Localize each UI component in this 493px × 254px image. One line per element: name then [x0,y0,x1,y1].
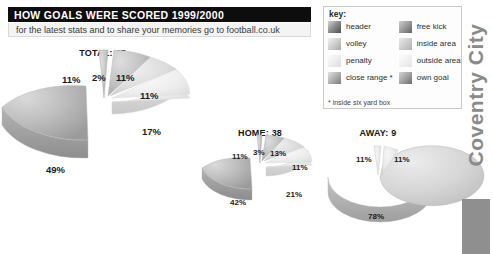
brand-color-block [462,199,490,254]
chart-home-label-3: 13% [270,149,286,158]
legend-item-penalty: penalty [328,54,393,67]
swatch-penalty-icon [328,55,341,67]
chart-home-label-2: 3% [253,148,265,157]
pie-total-slice-49 [2,85,88,158]
legend-item-own-goal: own goal [399,71,461,84]
legend-label-header: header [346,22,371,31]
chart-total-label-4: 11% [140,90,159,101]
chart-total-label-2: 2% [92,72,106,83]
legend-label-outside-area: outside area [417,56,461,65]
legend-title: key: [329,9,346,19]
legend-columns: header volley penalty close range * [328,20,458,84]
legend-label-inside-area: inside area [417,39,456,48]
pie-away-slice-11-left [374,146,381,175]
chart-total-pie [0,62,205,254]
brand-name: Coventry City [464,23,488,166]
pie-home-slice-42 [202,157,252,200]
poster-root: HOW GOALS WERE SCORED 1999/2000 for the … [0,0,493,254]
legend-column-left: header volley penalty close range * [328,20,393,84]
legend-key-box: key: header volley penalty close range * [323,6,462,109]
brand-strip: Coventry City [458,0,493,190]
chart-away: AWAY: 9 [318,128,458,254]
chart-away-title: AWAY: 9 [318,128,438,138]
chart-total-label-3: 11% [116,72,135,83]
chart-total-label-1: 11% [62,74,81,85]
chart-total-label-6: 49% [46,164,65,175]
page-subtitle: for the latest stats and to share your m… [9,25,280,35]
chart-total: TOTAL: 47 [0,48,205,254]
legend-item-close-range: close range * [328,71,393,84]
legend-label-free-kick: free kick [417,22,447,31]
swatch-inside-area-icon [399,38,412,50]
chart-home-label-6: 42% [230,198,246,207]
chart-home-label-4: 11% [292,163,308,172]
chart-home-label-5: 21% [286,190,302,199]
page-title-bar: HOW GOALS WERE SCORED 1999/2000 [8,7,311,22]
legend-item-volley: volley [328,37,393,50]
legend-item-inside-area: inside area [399,37,461,50]
pie-total-svg [0,62,205,254]
chart-home-label-1: 11% [232,152,248,161]
legend-footnote: * inside six yard box [328,99,390,106]
legend-item-outside-area: outside area [399,54,461,67]
legend-label-own-goal: own goal [417,73,449,82]
chart-away-pie [318,144,458,254]
legend-item-header: header [328,20,393,33]
legend-item-free-kick: free kick [399,20,461,33]
swatch-volley-icon [328,38,341,50]
legend-column-right: free kick inside area outside area own g… [399,20,461,84]
chart-away-label-2: 11% [394,155,410,164]
chart-total-label-5: 17% [142,126,161,137]
legend-label-volley: volley [346,39,366,48]
legend-label-close-range: close range * [346,73,393,82]
legend-label-penalty: penalty [346,56,372,65]
swatch-free-kick-icon [399,21,412,33]
chart-away-label-3: 78% [368,212,384,221]
swatch-close-range-icon [328,72,341,84]
swatch-outside-area-icon [399,55,412,67]
swatch-own-goal-icon [399,72,412,84]
chart-home: HOME: 38 [200,128,320,254]
page-subtitle-bar: for the latest stats and to share your m… [8,23,311,37]
swatch-header-icon [328,21,341,33]
pie-away-svg [318,144,458,254]
page-title: HOW GOALS WERE SCORED 1999/2000 [8,9,224,21]
chart-away-label-1: 11% [356,155,372,164]
